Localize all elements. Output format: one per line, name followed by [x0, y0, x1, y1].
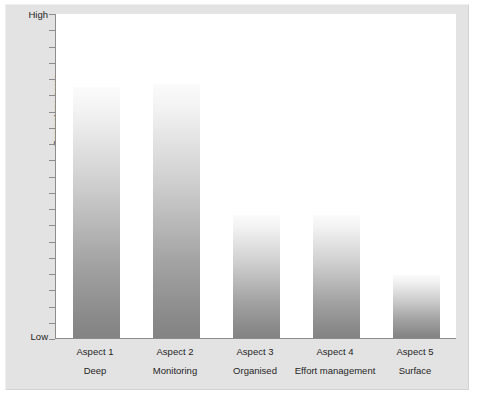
category-name: Aspect 3: [210, 344, 300, 359]
y-axis-max-label: High: [4, 9, 48, 20]
category-name: Aspect 2: [130, 344, 220, 359]
bar: [153, 84, 200, 338]
category-labels: Aspect 1DeepAspect 2MonitoringAspect 3Or…: [55, 344, 456, 390]
chart-figure: High Low Percentage score Aspect 1DeepAs…: [5, 4, 469, 390]
bar: [233, 215, 280, 338]
category-label: Aspect 5Surface: [370, 344, 460, 378]
y-axis-tick: [49, 339, 55, 340]
category-label: Aspect 4Effort management: [290, 344, 380, 378]
category-description: Monitoring: [130, 363, 220, 378]
category-label: Aspect 3Organised: [210, 344, 300, 378]
plot-area: [55, 14, 456, 339]
category-description: Deep: [50, 363, 140, 378]
category-label: Aspect 1Deep: [50, 344, 140, 378]
bar: [393, 275, 440, 338]
category-name: Aspect 4: [290, 344, 380, 359]
bar: [313, 215, 360, 338]
category-description: Effort management: [290, 363, 380, 378]
category-description: Surface: [370, 363, 460, 378]
bar: [73, 87, 120, 338]
category-name: Aspect 5: [370, 344, 460, 359]
category-label: Aspect 2Monitoring: [130, 344, 220, 378]
category-description: Organised: [210, 363, 300, 378]
category-name: Aspect 1: [50, 344, 140, 359]
y-axis-min-label: Low: [4, 331, 48, 342]
